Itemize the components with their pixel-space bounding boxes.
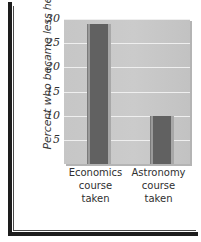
y-tick-label: 25 xyxy=(34,38,60,48)
x-category-label-line: taken xyxy=(127,192,190,205)
y-tick-label: 15 xyxy=(34,87,60,97)
gridline xyxy=(64,67,190,68)
bar-shadow xyxy=(108,24,111,164)
x-category-label: Economicscoursetaken xyxy=(64,166,127,205)
y-tick-label: 20 xyxy=(34,62,60,72)
gridline xyxy=(64,92,190,93)
x-category-label-line: Astronomy xyxy=(127,166,190,179)
frame-bottom-rule xyxy=(8,232,198,236)
x-category-label-line: Economics xyxy=(64,166,127,179)
bar xyxy=(88,24,108,164)
plot-area xyxy=(64,19,190,164)
x-category-label-line: course xyxy=(64,179,127,192)
bar-chart: Percent who became less helpful 51015202… xyxy=(16,8,194,220)
y-tick-label: 10 xyxy=(34,111,60,121)
figure-frame: Percent who became less helpful 51015202… xyxy=(0,0,201,242)
bar xyxy=(151,116,171,164)
x-axis-category-labels: EconomicscoursetakenAstronomycoursetaken xyxy=(64,166,190,220)
frame-left-rule xyxy=(8,2,12,236)
y-axis-tick-labels: 51015202530 xyxy=(34,8,60,168)
frame-inner-bottom-rule xyxy=(13,230,196,231)
gridline xyxy=(64,43,190,44)
y-tick-label: 30 xyxy=(34,14,60,24)
frame-inner-left-rule xyxy=(13,6,14,231)
x-category-label-line: taken xyxy=(64,192,127,205)
y-tick-label: 5 xyxy=(34,135,60,145)
bar-shadow xyxy=(171,116,174,164)
x-category-label-line: course xyxy=(127,179,190,192)
gridline xyxy=(64,19,190,20)
x-category-label: Astronomycoursetaken xyxy=(127,166,190,205)
